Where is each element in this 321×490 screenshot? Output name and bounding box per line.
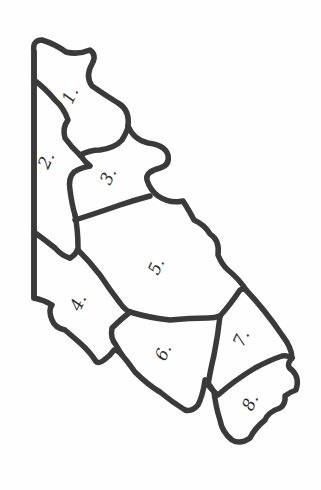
border-2-3 <box>70 155 91 215</box>
region-5[interactable]: 5. <box>143 255 168 278</box>
region-label-5: 5. <box>143 255 168 278</box>
region-label-8: 8. <box>237 391 262 414</box>
border-3-5 <box>75 196 150 220</box>
border-2-4 <box>34 232 70 258</box>
border-1-3 <box>80 126 128 155</box>
region-2[interactable]: 2. <box>33 149 58 173</box>
region-label-2: 2. <box>33 149 58 173</box>
region-map: 1. 2. 3. 4. 5. 6. 7. 8. <box>0 0 321 490</box>
border-6-7 <box>208 316 220 385</box>
region-label-3: 3. <box>95 165 120 188</box>
region-3[interactable]: 3. <box>95 165 120 188</box>
region-4[interactable]: 4. <box>65 291 90 315</box>
map-canvas: 1. 2. 3. 4. 5. 6. 7. 8. <box>0 0 321 490</box>
region-7[interactable]: 7. <box>228 327 253 350</box>
region-label-6: 6. <box>150 341 175 364</box>
region-8[interactable]: 8. <box>237 391 262 414</box>
region-label-4: 4. <box>65 291 90 315</box>
border-7-8 <box>208 356 292 395</box>
region-6[interactable]: 6. <box>150 341 175 364</box>
border-5-7 <box>220 289 246 316</box>
region-label-7: 7. <box>228 327 253 350</box>
border-5-6 <box>130 312 220 320</box>
